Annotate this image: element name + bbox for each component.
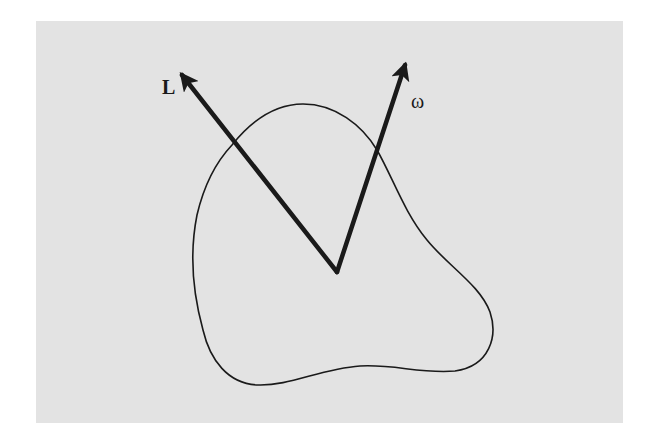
label-L: L: [162, 76, 175, 98]
angular-velocity-vector: [337, 65, 405, 272]
label-omega: ω: [411, 90, 424, 112]
rigid-body-diagram: L ω: [0, 0, 654, 438]
